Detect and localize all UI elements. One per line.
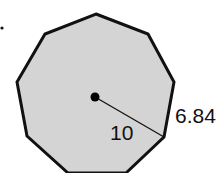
radius-label: 10 — [110, 121, 133, 144]
nonagon-diagram: 10 6.84 — [0, 0, 221, 173]
stray-mark — [0, 26, 3, 29]
side-length-label: 6.84 — [175, 104, 216, 127]
center-point — [91, 93, 100, 102]
